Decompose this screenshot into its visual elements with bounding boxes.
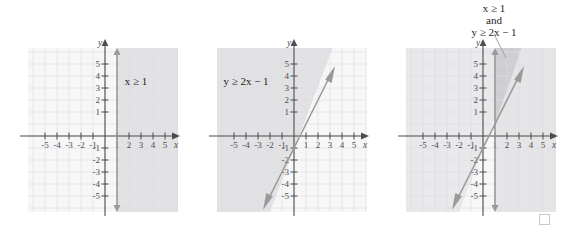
inequality-label: y ≥ 2x − 1 <box>223 75 268 87</box>
x-tick-label: -4 <box>53 140 61 150</box>
y-tick-label: -4 <box>282 179 290 189</box>
y-tick-label: 5 <box>474 59 479 69</box>
y-tick-label: -4 <box>93 179 101 189</box>
inequality-label-line-3: y ≥ 2x − 1 <box>471 26 516 38</box>
x-tick-label: 5 <box>541 140 546 150</box>
y-tick-label: -5 <box>282 191 290 201</box>
x-tick-label: 3 <box>517 140 522 150</box>
y-tick-label: -2 <box>93 155 101 165</box>
y-axis-label: y <box>97 38 103 48</box>
inequality-label-group: x ≥ 1 and y ≥ 2x − 1 <box>471 2 516 38</box>
y-axis-label: y <box>475 38 481 48</box>
y-axis-arrow-icon <box>102 39 109 46</box>
y-tick-label: 4 <box>474 71 479 81</box>
panel-3-svg: -5 -4 -3 -2 -1 1 2 3 4 5 5 4 3 2 1 -1 -2… <box>378 0 567 237</box>
x-tick-label: -4 <box>431 140 439 150</box>
y-tick-label: 1 <box>285 107 290 117</box>
y-tick-label: 2 <box>285 95 290 105</box>
graph-panel-intersection: -5 -4 -3 -2 -1 1 2 3 4 5 5 4 3 2 1 -1 -2… <box>378 0 567 237</box>
y-tick-label: 2 <box>96 95 101 105</box>
x-tick-label: 4 <box>529 140 534 150</box>
x-axis-label: x <box>173 140 179 150</box>
x-tick-label: 1 <box>304 140 309 150</box>
y-tick-label: 4 <box>96 71 101 81</box>
graph-panel-x-ge-1: -5 -4 -3 -2 -1 1 2 3 4 5 5 4 3 2 1 -1 -2… <box>0 0 189 237</box>
y-tick-label: -1 <box>471 143 479 153</box>
y-tick-label: -1 <box>93 143 101 153</box>
x-tick-label: -4 <box>242 140 250 150</box>
y-axis-arrow-icon <box>480 39 487 46</box>
inequality-label-line-1: x ≥ 1 <box>483 2 506 14</box>
y-tick-label: 5 <box>96 59 101 69</box>
inequality-graphs-figure: -5 -4 -3 -2 -1 1 2 3 4 5 5 4 3 2 1 -1 -2… <box>0 0 567 237</box>
x-tick-label: -5 <box>230 140 238 150</box>
x-tick-label: -5 <box>419 140 427 150</box>
x-tick-label: 5 <box>163 140 168 150</box>
y-axis-arrow-icon <box>291 39 298 46</box>
x-tick-label: 4 <box>151 140 156 150</box>
x-tick-label: -2 <box>455 140 463 150</box>
x-tick-label: -2 <box>266 140 274 150</box>
graph-panel-y-ge-2x-minus-1: -5 -4 -3 -2 -1 1 2 3 4 5 5 4 3 2 1 -1 -2… <box>189 0 378 237</box>
y-tick-label: 5 <box>285 59 290 69</box>
y-tick-label: 4 <box>285 71 290 81</box>
y-tick-label: 3 <box>285 83 290 93</box>
x-tick-label: 3 <box>328 140 333 150</box>
x-tick-label: -3 <box>254 140 262 150</box>
x-tick-label: 5 <box>352 140 357 150</box>
x-tick-label: 2 <box>316 140 321 150</box>
y-tick-label: 3 <box>474 83 479 93</box>
x-tick-label: -2 <box>77 140 85 150</box>
panel-2-svg: -5 -4 -3 -2 -1 1 2 3 4 5 5 4 3 2 1 -1 -2… <box>189 0 378 237</box>
y-tick-label: 1 <box>474 107 479 117</box>
x-tick-label: -5 <box>41 140 49 150</box>
x-tick-label: -3 <box>443 140 451 150</box>
x-tick-label: -3 <box>65 140 73 150</box>
x-tick-label: 4 <box>340 140 345 150</box>
y-axis-label: y <box>286 38 292 48</box>
x-tick-label: 2 <box>127 140 132 150</box>
y-tick-label: -3 <box>93 167 101 177</box>
inequality-label: x ≥ 1 <box>125 75 148 87</box>
x-axis-label: x <box>362 140 368 150</box>
y-tick-label: -5 <box>471 191 479 201</box>
x-axis-label: x <box>551 140 557 150</box>
y-tick-label: -1 <box>282 143 290 153</box>
y-tick-label: 2 <box>474 95 479 105</box>
y-tick-label: 3 <box>96 83 101 93</box>
shaded-region-x-ge-1 <box>117 48 178 212</box>
y-tick-label: -4 <box>471 179 479 189</box>
placeholder-box[interactable] <box>539 214 550 225</box>
y-tick-label: -5 <box>93 191 101 201</box>
panel-1-svg: -5 -4 -3 -2 -1 1 2 3 4 5 5 4 3 2 1 -1 -2… <box>0 0 189 237</box>
y-tick-label: 1 <box>96 107 101 117</box>
x-tick-label: 3 <box>139 140 144 150</box>
x-tick-label: 2 <box>505 140 510 150</box>
inequality-label-line-2: and <box>486 14 502 26</box>
